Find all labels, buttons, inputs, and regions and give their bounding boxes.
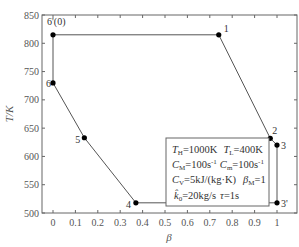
x-tick-label: 0.6: [181, 217, 194, 228]
x-tick-label: 0.4: [136, 217, 149, 228]
x-tick-label: 0.8: [226, 217, 239, 228]
data-point-marker: [133, 200, 138, 205]
data-point-marker: [82, 135, 87, 140]
y-tick-label: 750: [24, 66, 39, 77]
y-tick-label: 850: [24, 10, 39, 21]
y-axis-title: T/K: [3, 105, 15, 122]
point-label: 4: [126, 199, 131, 210]
point-label: 6'(0): [47, 16, 65, 28]
point-label: 3': [281, 198, 288, 209]
y-tick-label: 600: [24, 151, 39, 162]
point-label: 6: [46, 78, 51, 89]
y-tick-label: 550: [24, 179, 39, 190]
legend-line-4: k̂0=20kg/sτ=1s: [174, 189, 239, 203]
y-tick-label: 650: [24, 123, 39, 134]
y-tick-label: 700: [24, 94, 39, 105]
chart-canvas: 00.10.20.30.40.50.60.70.80.91 5005506006…: [0, 0, 299, 247]
point-label: 5: [75, 134, 80, 145]
x-axis-title: β: [165, 231, 172, 243]
x-axis-tick-labels: 00.10.20.30.40.50.60.70.80.91: [51, 217, 280, 228]
x-tick-label: 0.7: [204, 217, 217, 228]
x-tick-label: 0.2: [92, 217, 105, 228]
x-tick-label: 0: [51, 217, 56, 228]
point-label: 2: [272, 125, 277, 136]
point-label: 3: [281, 140, 286, 151]
data-point-marker: [50, 80, 55, 85]
y-tick-label: 500: [24, 208, 39, 219]
x-tick-label: 0.3: [114, 217, 127, 228]
x-tick-label: 1: [275, 217, 280, 228]
x-tick-label: 0.1: [69, 217, 82, 228]
data-point-marker: [274, 200, 279, 205]
y-tick-label: 800: [24, 38, 39, 49]
data-point-marker: [50, 32, 55, 37]
point-label: 1: [224, 23, 229, 34]
data-point-marker: [274, 143, 279, 148]
x-tick-label: 0.5: [159, 217, 172, 228]
data-point-marker: [216, 32, 221, 37]
y-axis-tick-labels: 500550600650700750800850: [24, 10, 39, 219]
x-tick-label: 0.9: [248, 217, 261, 228]
